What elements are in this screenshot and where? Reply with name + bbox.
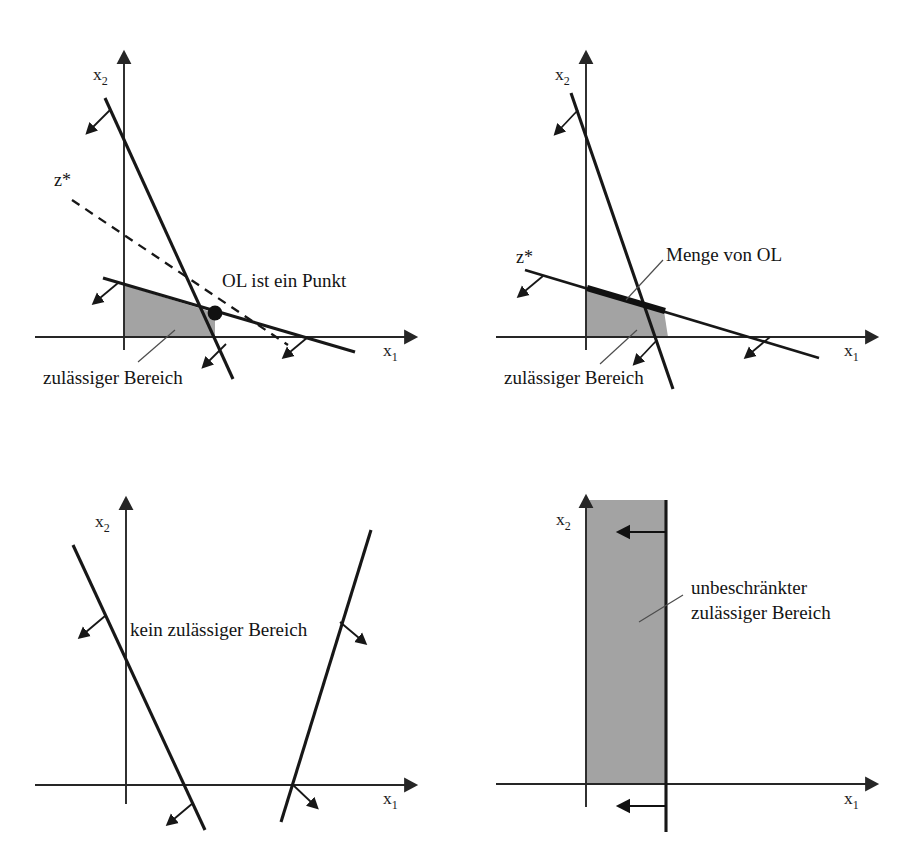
x-axis-label: x1 (383, 788, 398, 812)
panel-unique-optimum: x2 x1 z* OL ist ein Punkt zulässiger Ber… (0, 0, 461, 432)
x-axis-label: x1 (844, 340, 859, 364)
unbounded-region-label-line1: unbeschränkter (691, 577, 808, 598)
y-axis-label: x2 (93, 64, 108, 88)
feasible-region-shape (586, 288, 668, 337)
figure-sheet: x2 x1 z* OL ist ein Punkt zulässiger Ber… (0, 0, 921, 864)
normal-arrow-descending-bottom (174, 803, 193, 819)
y-axis-label: x2 (95, 511, 110, 535)
objective-line-label: z* (516, 247, 533, 267)
unbounded-feasible-region-shape (586, 500, 666, 784)
constraint-line-descending (73, 545, 205, 830)
y-axis-label: x2 (556, 509, 571, 533)
constraint-normal-arrow-shallow-left (100, 283, 118, 298)
objective-line-label: z* (54, 170, 71, 190)
panel-multiple-optima: x2 x1 z* Menge von OL zulässiger Bereich (461, 0, 921, 432)
constraint-line-ascending (281, 530, 371, 822)
optimal-vertex-dot (208, 306, 223, 321)
normal-arrow-descending-top (86, 616, 105, 632)
unbounded-region-label-line2: zulässiger Bereich (691, 602, 831, 623)
no-feasible-region-label: kein zulässiger Bereich (130, 619, 308, 640)
normal-arrow-ascending-top (340, 622, 359, 638)
constraint-normal-arrow-shallow-left (525, 276, 543, 291)
constraint-normal-arrow-steep-bottom (640, 340, 657, 358)
y-axis-label: x2 (555, 64, 570, 88)
optimum-set-label: Menge von OL (666, 244, 782, 265)
feasible-region-label: zulässiger Bereich (43, 367, 183, 388)
panel-unbounded: x2 x1 unbeschränkter zulässiger Bereich (461, 432, 921, 864)
constraint-normal-arrow-steep-top (93, 110, 110, 127)
x-axis-label: x1 (383, 340, 398, 364)
normal-arrow-ascending-bottom (292, 784, 311, 802)
constraint-line-shallow (525, 270, 819, 358)
optimum-label: OL ist ein Punkt (222, 270, 347, 291)
constraint-normal-arrow-steep-top (561, 110, 578, 128)
panel-infeasible: x2 x1 kein zulässiger Bereich (0, 432, 461, 864)
x-axis-label: x1 (844, 788, 859, 812)
feasible-region-label: zulässiger Bereich (504, 367, 644, 388)
constraint-normal-arrow-shallow-right (290, 337, 308, 352)
